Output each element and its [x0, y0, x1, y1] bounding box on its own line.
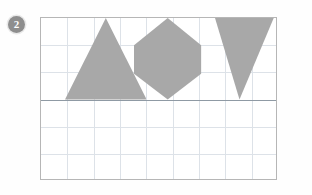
shape-layer	[41, 18, 276, 179]
hexagon	[134, 18, 201, 100]
figure-panel: 2	[0, 0, 312, 195]
step-number-label: 2	[14, 19, 20, 30]
inverted-triangle	[215, 18, 274, 100]
step-number-marker: 2	[8, 16, 25, 33]
plot-frame	[40, 17, 277, 180]
